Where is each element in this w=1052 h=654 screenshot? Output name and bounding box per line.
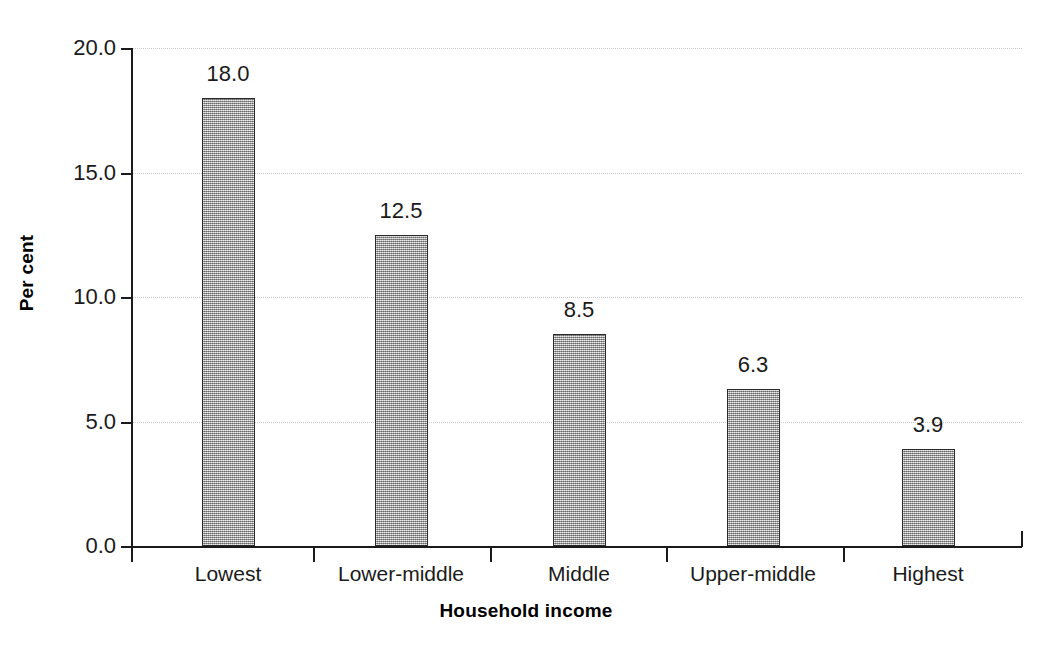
bar-lower-middle — [375, 235, 428, 546]
bar-lowest — [202, 98, 255, 546]
bar-value-middle: 8.5 — [519, 299, 639, 321]
bar-value-upper-middle: 6.3 — [693, 354, 813, 376]
y-axis-title: Per cent — [16, 213, 38, 333]
bar-highest — [902, 449, 955, 546]
x-category-label-highest: Highest — [818, 562, 1038, 585]
y-tick-label-5: 5.0 — [38, 411, 116, 433]
x-tick-mark-4 — [843, 547, 845, 562]
y-tick-mark-20 — [121, 48, 132, 50]
bar-chart: 20.0 15.0 10.0 5.0 0.0 18.0 12.5 8.5 6.3… — [0, 0, 1052, 654]
y-tick-label-15: 15.0 — [38, 162, 116, 184]
y-tick-mark-10 — [121, 297, 132, 299]
bar-value-highest: 3.9 — [868, 414, 988, 436]
y-tick-label-0: 0.0 — [38, 535, 116, 557]
y-tick-mark-15 — [121, 173, 132, 175]
x-axis-title: Household income — [0, 600, 1052, 622]
bar-value-lowest: 18.0 — [168, 63, 288, 85]
gridline-15 — [131, 173, 1022, 174]
x-axis-end-tick — [1021, 531, 1023, 547]
y-tick-label-20: 20.0 — [38, 37, 116, 59]
x-axis-line — [131, 546, 1022, 548]
x-tick-mark-2 — [490, 547, 492, 562]
y-tick-label-10: 10.0 — [38, 286, 116, 308]
y-tick-mark-5 — [121, 422, 132, 424]
x-tick-mark-0 — [131, 547, 133, 562]
bar-value-lower-middle: 12.5 — [341, 200, 461, 222]
bar-middle — [553, 334, 606, 546]
gridline-20 — [131, 48, 1022, 49]
x-tick-mark-3 — [666, 547, 668, 562]
bar-upper-middle — [727, 389, 780, 546]
x-tick-mark-1 — [313, 547, 315, 562]
